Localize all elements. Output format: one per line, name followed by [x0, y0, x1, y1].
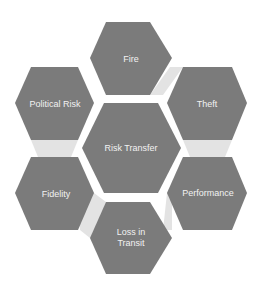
connector-fidelity-politicalrisk [31, 140, 78, 157]
node-label-loss-in-transit: Loss in Transit [117, 227, 146, 249]
node-label-political-risk: Political Risk [29, 99, 80, 110]
node-label-fire: Fire [123, 54, 139, 65]
node-label-performance: Performance [182, 188, 234, 199]
node-label-theft: Theft [197, 99, 218, 110]
connector-theft-performance [183, 140, 232, 157]
node-label-fidelity: Fidelity [42, 189, 71, 200]
center-label-risk-transfer: Risk Transfer [104, 143, 157, 154]
risk-transfer-diagram: Fire Theft Performance Loss in Transit F… [0, 0, 261, 288]
